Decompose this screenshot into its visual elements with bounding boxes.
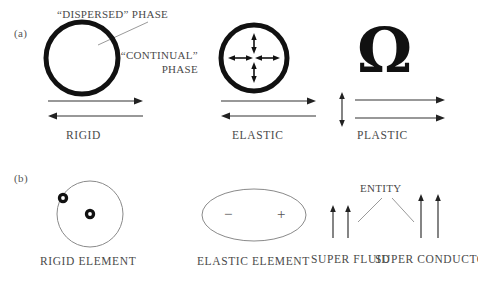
super-conductor-arrow-1-head — [418, 194, 424, 201]
super-conductor-arrows — [418, 194, 441, 238]
super-conductor-glyph-svg — [0, 0, 478, 292]
caption-super-conductor: SUPER CONDUCTOR — [375, 253, 471, 265]
figure-root: (a) “DISPERSED” PHASE “CONTINUAL” PHASE … — [0, 0, 478, 292]
super-conductor-arrow-2-head — [435, 194, 441, 201]
